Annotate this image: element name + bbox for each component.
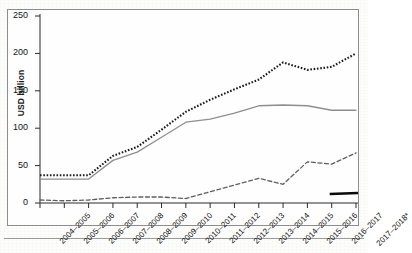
data-series-layer xyxy=(40,53,356,200)
x-axis-ticks xyxy=(40,203,356,208)
y-axis-ticks xyxy=(35,16,40,203)
black-bar-marker xyxy=(330,193,358,194)
annotation-layer xyxy=(330,193,358,194)
series-line-dotted-series xyxy=(40,53,356,175)
y-axis-tick-label: 100 xyxy=(2,122,28,132)
y-axis-tick-label: 200 xyxy=(2,47,28,57)
series-line-solid-series xyxy=(40,105,356,179)
y-axis-tick-label: 0 xyxy=(2,197,28,207)
series-line-dashed-series xyxy=(40,153,356,201)
y-axis-tick-label: 50 xyxy=(2,160,28,170)
y-axis-tick-label: 150 xyxy=(2,85,28,95)
y-axis-tick-label: 250 xyxy=(2,10,28,20)
